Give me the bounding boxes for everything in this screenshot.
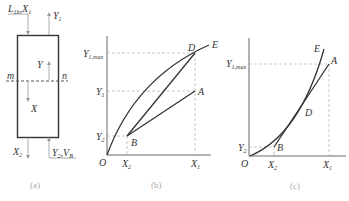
tick-x1-b: X1 (190, 158, 200, 170)
panel-c: Y1,max Y2 O X2 X1 E A D B (c) (226, 38, 346, 191)
tick-y1-b: Y1 (96, 86, 105, 98)
tick-y2-c: Y2 (238, 142, 247, 154)
label-internal-x: X (30, 103, 38, 114)
element-rectangle (18, 36, 59, 138)
origin-c: O (241, 158, 248, 169)
tick-x2-c: X2 (267, 159, 277, 171)
label-bottom-right: Y2,VB (52, 147, 73, 159)
point-E-c: E (313, 43, 320, 54)
point-D-c: D (304, 107, 313, 118)
point-B-c: B (277, 142, 283, 153)
curve-OE-b (107, 45, 209, 155)
caption-b: (b) (151, 180, 162, 190)
tick-x2-b: X2 (121, 158, 131, 170)
point-E-b: E (211, 39, 218, 50)
label-internal-y: Y (37, 59, 44, 70)
point-A-b: A (197, 86, 205, 97)
label-bottom-left: X2 (12, 146, 22, 158)
tick-y1max-c: Y1,max (226, 58, 246, 70)
point-A-c: A (330, 55, 338, 66)
origin-b: O (99, 157, 106, 168)
line-BD-b (127, 53, 195, 136)
figure: L1b,X1 Y1 m n Y X X2 Y2,VB (a) Y1, (0, 0, 349, 201)
point-B-b: B (131, 137, 137, 148)
panel-b: Y1,max Y1 Y2 O X2 X1 D E A B (b) (83, 36, 218, 190)
caption-c: (c) (290, 181, 300, 191)
curve-OE-c (250, 49, 324, 156)
label-n: n (62, 70, 67, 81)
caption-a: (a) (30, 180, 40, 190)
label-m: m (7, 70, 14, 81)
tick-x1-c: X1 (322, 159, 332, 171)
label-top-right: Y1 (53, 10, 62, 22)
point-D-b: D (187, 42, 196, 53)
tick-y1max-b: Y1,max (83, 48, 103, 60)
line-BA-b (127, 91, 195, 136)
line-BA-c (274, 64, 329, 147)
panel-a: L1b,X1 Y1 m n Y X X2 Y2,VB (a) (6, 3, 76, 190)
label-top-left: L1b,X1 (7, 3, 31, 15)
tick-y2-b: Y2 (96, 131, 105, 143)
